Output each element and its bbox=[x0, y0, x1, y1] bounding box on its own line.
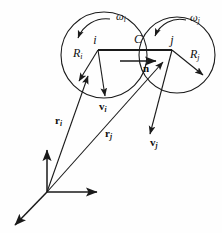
label-velocity-v-j: vj bbox=[150, 136, 159, 150]
label-omega-i: ωi bbox=[116, 10, 126, 24]
label-normal-n: n bbox=[143, 62, 149, 74]
position-vector-r-i bbox=[47, 76, 88, 192]
axis-diagonal bbox=[15, 192, 47, 225]
velocity-vector-v-i bbox=[98, 50, 105, 96]
diagram-canvas: ωi ωj i j C n Ri Rj vi vj ri bbox=[0, 0, 222, 233]
label-contact-C: C bbox=[134, 32, 143, 46]
figure-container: ωi ωj i j C n Ri Rj vi vj ri bbox=[0, 0, 222, 233]
label-position-r-i: ri bbox=[55, 114, 63, 128]
label-radius-R-j: Rj bbox=[189, 47, 200, 62]
label-omega-j: ωj bbox=[190, 11, 200, 25]
label-position-r-j: rj bbox=[105, 127, 113, 141]
label-particle-i: i bbox=[93, 33, 96, 47]
label-particle-j: j bbox=[168, 33, 174, 47]
label-radius-R-i: Ri bbox=[72, 46, 83, 61]
label-velocity-v-i: vi bbox=[99, 100, 108, 114]
particle-j-circle bbox=[139, 17, 215, 93]
